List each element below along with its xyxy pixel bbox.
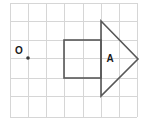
grid-horizontal-lines	[10, 3, 137, 117]
geometry-figure: O A	[0, 0, 146, 123]
origin-label: O	[15, 45, 23, 56]
grid-vertical-lines	[10, 3, 137, 117]
origin-point-dot	[26, 56, 30, 60]
figure-canvas: O A	[0, 0, 146, 123]
shape-label-a: A	[106, 53, 113, 64]
